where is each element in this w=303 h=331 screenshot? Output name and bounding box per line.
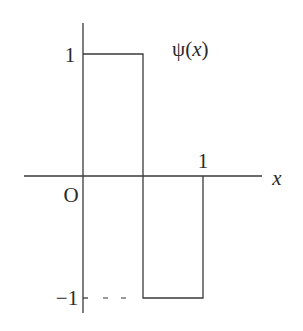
x-tick-label-1: 1 bbox=[198, 149, 209, 173]
y-tick-label-neg1: −1 bbox=[56, 286, 78, 310]
y-tick-label-1: 1 bbox=[65, 43, 76, 67]
origin-label: O bbox=[63, 183, 78, 207]
open-paren: ( bbox=[185, 37, 192, 61]
haar-wavelet-diagram: 1 −1 O 1 x ψ(x) bbox=[0, 0, 303, 331]
psi-symbol: ψ bbox=[172, 37, 185, 61]
function-label: ψ(x) bbox=[172, 37, 208, 61]
close-paren: ) bbox=[201, 37, 208, 61]
x-axis-label: x bbox=[271, 166, 282, 190]
